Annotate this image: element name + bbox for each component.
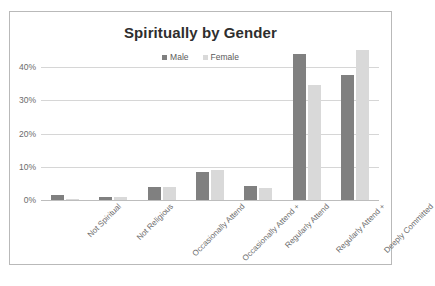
bar-group bbox=[186, 67, 234, 200]
legend-item-female[interactable]: Female bbox=[203, 52, 239, 62]
bar-male[interactable] bbox=[148, 187, 161, 200]
x-axis-tick-label: Deeply Committed bbox=[382, 202, 435, 255]
bar-female[interactable] bbox=[114, 197, 127, 200]
bar-male[interactable] bbox=[244, 186, 257, 200]
legend-item-male[interactable]: Male bbox=[162, 52, 188, 62]
y-axis-tick-label: 0% bbox=[24, 195, 36, 205]
bar-female[interactable] bbox=[356, 50, 369, 200]
y-axis-tick-label: 20% bbox=[19, 129, 36, 139]
y-axis-tick-label: 10% bbox=[19, 162, 36, 172]
x-axis-tick-label: Not Spiritual bbox=[86, 202, 123, 239]
legend-swatch-female bbox=[203, 55, 208, 60]
bar-male[interactable] bbox=[196, 172, 209, 200]
chart-title: Spiritually by Gender bbox=[10, 24, 391, 41]
bar-male[interactable] bbox=[51, 195, 64, 200]
bar-female[interactable] bbox=[66, 199, 79, 200]
bar-group bbox=[138, 67, 186, 200]
x-axis-labels: Not SpiritualNot ReligiousOccasionally A… bbox=[41, 202, 379, 282]
bar-group bbox=[331, 67, 379, 200]
bar-group bbox=[89, 67, 137, 200]
bar-group bbox=[282, 67, 330, 200]
chart-legend: Male Female bbox=[10, 52, 391, 62]
legend-swatch-male bbox=[162, 55, 167, 60]
legend-label-female: Female bbox=[211, 52, 239, 62]
x-axis-tick-label: Regularly Attend + bbox=[334, 202, 387, 255]
plot-area: 40%30%20%10%0% bbox=[41, 67, 379, 200]
y-axis-tick-label: 30% bbox=[19, 95, 36, 105]
bar-group bbox=[41, 67, 89, 200]
legend-label-male: Male bbox=[170, 52, 188, 62]
bar-male[interactable] bbox=[341, 75, 354, 200]
bar-male[interactable] bbox=[293, 54, 306, 200]
bar-female[interactable] bbox=[308, 85, 321, 200]
bar-female[interactable] bbox=[259, 188, 272, 200]
x-axis-tick-label: Not Religious bbox=[135, 202, 175, 242]
bar-female[interactable] bbox=[163, 187, 176, 200]
bar-group bbox=[234, 67, 282, 200]
y-axis-tick-label: 40% bbox=[19, 62, 36, 72]
bar-series-container bbox=[41, 67, 379, 200]
chart-frame: Spiritually by Gender Male Female 40%30%… bbox=[9, 11, 392, 265]
bar-male[interactable] bbox=[99, 197, 112, 200]
x-axis-line bbox=[41, 200, 379, 201]
x-axis-tick-label: Occasionally Attend bbox=[190, 202, 246, 258]
bar-female[interactable] bbox=[211, 170, 224, 200]
